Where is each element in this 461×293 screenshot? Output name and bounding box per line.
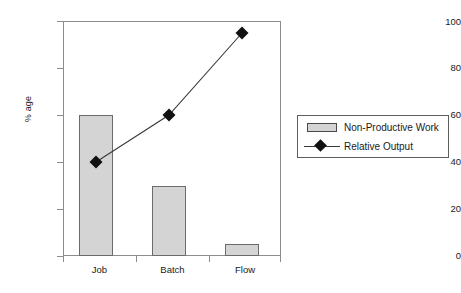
y-tick-label-80: 80: [435, 63, 461, 73]
relative-output-series: [63, 21, 281, 256]
y-tick-label-20: 20: [435, 204, 461, 214]
x-tick-mark-0: [63, 256, 64, 262]
x-tick-mark-1: [136, 256, 137, 262]
legend-label-non-productive-work: Non-Productive Work: [344, 123, 439, 133]
relative-output-line: [96, 33, 242, 162]
marker-job: [90, 156, 103, 169]
x-tick-label-batch: Batch: [136, 264, 209, 275]
legend-bar-swatch-icon: [298, 117, 344, 138]
chart-legend: Non-Productive Work Relative Output: [297, 115, 449, 158]
legend-line-diamond-icon: [298, 136, 344, 157]
x-tick-label-job: Job: [63, 264, 136, 275]
y-tick-label-100: 100: [435, 17, 461, 27]
legend-item-relative-output: Relative Output: [298, 136, 448, 157]
x-tick-label-flow: Flow: [209, 264, 281, 275]
legend-label-relative-output: Relative Output: [344, 142, 413, 152]
chart-figure: % age 100 80 60 40 20 0 Job Batch Flow N…: [0, 0, 461, 293]
legend-item-non-productive-work: Non-Productive Work: [298, 117, 448, 138]
y-tick-label-40: 40: [435, 157, 461, 167]
x-tick-mark-3: [280, 256, 281, 262]
y-axis-title: % age: [23, 79, 33, 139]
y-tick-label-0: 0: [435, 251, 461, 261]
x-tick-mark-2: [209, 256, 210, 262]
